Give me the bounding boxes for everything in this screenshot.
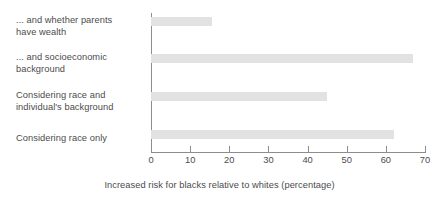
category-label-race-only: Considering race only <box>16 133 148 145</box>
x-axis-tick-label: 30 <box>256 155 280 166</box>
x-axis-tick <box>347 146 348 153</box>
category-label-line: have wealth <box>16 27 148 39</box>
x-axis-tick <box>308 146 309 153</box>
category-label-line: individual's background <box>16 102 148 114</box>
category-label-socioeconomic: ... and socioeconomic background <box>16 52 148 75</box>
x-axis-tick-label: 20 <box>217 155 241 166</box>
x-axis-tick-label: 0 <box>139 155 163 166</box>
x-axis-tick-label: 70 <box>413 155 437 166</box>
x-axis-tick <box>386 146 387 153</box>
category-label-parents-wealth: ... and whether parents have wealth <box>16 15 148 38</box>
bar <box>151 54 413 63</box>
x-axis-tick-label: 40 <box>296 155 320 166</box>
bar <box>151 92 327 101</box>
category-label-line: background <box>16 64 148 76</box>
x-axis-tick <box>425 146 426 153</box>
x-axis-line <box>151 152 425 153</box>
x-axis-tick <box>268 146 269 153</box>
category-label-line: ... and socioeconomic <box>16 52 148 64</box>
category-label-line: ... and whether parents <box>16 15 148 27</box>
x-axis-tick <box>151 146 152 153</box>
bar-chart: ... and whether parents have wealth ... … <box>0 0 439 206</box>
x-axis-tick-label: 60 <box>374 155 398 166</box>
x-axis-tick <box>229 146 230 153</box>
x-axis-tick <box>190 146 191 153</box>
category-label-line: Considering race only <box>16 133 148 145</box>
category-label-race-and-background: Considering race and individual's backgr… <box>16 90 148 113</box>
x-axis-title: Increased risk for blacks relative to wh… <box>0 180 439 190</box>
x-axis-tick-label: 10 <box>178 155 202 166</box>
bar <box>151 130 394 139</box>
bar <box>151 17 212 26</box>
x-axis-tick-label: 50 <box>335 155 359 166</box>
category-label-line: Considering race and <box>16 90 148 102</box>
